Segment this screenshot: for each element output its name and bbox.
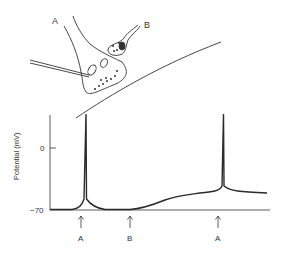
y-tick-label-minus70: −70 [30, 206, 44, 215]
stimulus-label-a1: A [78, 234, 84, 243]
y-tick-label-0: 0 [40, 144, 45, 153]
stimulus-arrows [79, 216, 221, 228]
stimulus-label-a2: A [215, 234, 221, 243]
stimulus-label-b: B [127, 234, 132, 243]
potential-chart: 0 −70 Potential (mV) A B A [12, 114, 270, 243]
mitochondrion [99, 58, 109, 69]
y-axis-label: Potential (mV) [12, 132, 21, 180]
label-terminal-b: B [144, 20, 150, 30]
postsynaptic-membrane [76, 42, 221, 118]
membrane-potential-trace [50, 114, 267, 210]
microelectrode [30, 63, 89, 77]
label-terminal-a: A [52, 16, 58, 26]
synapse-schematic [30, 16, 221, 118]
synapse-potential-figure: A B 0 −70 Potential (mV) A B A [0, 0, 283, 260]
presynaptic-terminal-a [64, 16, 126, 94]
presynaptic-terminal-b [108, 25, 140, 55]
